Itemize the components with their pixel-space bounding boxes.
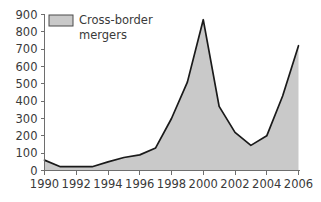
chart-legend: Cross-border mergers [49, 13, 153, 42]
y-tick-label-300: 300 [16, 112, 38, 126]
x-axis-tick-labels: 199019921994199619982000200220042006 [30, 177, 313, 191]
y-tick-label-700: 700 [16, 42, 38, 56]
y-tick-label-900: 900 [16, 8, 38, 22]
x-tick-label-2006: 2006 [284, 177, 313, 191]
x-tick-label-2000: 2000 [189, 177, 218, 191]
x-tick-label-1998: 1998 [157, 177, 186, 191]
y-tick-label-100: 100 [16, 146, 38, 160]
y-tick-label-800: 800 [16, 25, 38, 39]
x-tick-label-1990: 1990 [30, 177, 59, 191]
y-tick-label-400: 400 [16, 94, 38, 108]
y-axis-tick-labels: 0100200300400500600700800900 [16, 8, 38, 178]
x-tick-label-1992: 1992 [62, 177, 91, 191]
legend-label-line-2: mergers [79, 28, 127, 42]
plot-area [45, 20, 299, 171]
y-tick-label-0: 0 [30, 164, 37, 178]
x-tick-label-1994: 1994 [93, 177, 122, 191]
x-tick-label-2004: 2004 [252, 177, 281, 191]
y-tick-label-600: 600 [16, 60, 38, 74]
y-tick-label-500: 500 [16, 77, 38, 91]
x-axis: 199019921994199619982000200220042006 [30, 171, 313, 191]
x-tick-label-2002: 2002 [220, 177, 249, 191]
chart-canvas: 0100200300400500600700800900 19901992199… [0, 0, 321, 202]
x-tick-label-1996: 1996 [125, 177, 154, 191]
legend-swatch-cross-border-mergers [49, 15, 73, 26]
area-series-fill [45, 20, 299, 171]
y-tick-label-200: 200 [16, 129, 38, 143]
y-axis: 0100200300400500600700800900 [16, 8, 45, 178]
legend-label-line-1: Cross-border [79, 13, 153, 27]
y-axis-ticks [41, 15, 45, 171]
x-axis-ticks [45, 171, 299, 175]
cross-border-mergers-chart: 0100200300400500600700800900 19901992199… [0, 0, 321, 202]
